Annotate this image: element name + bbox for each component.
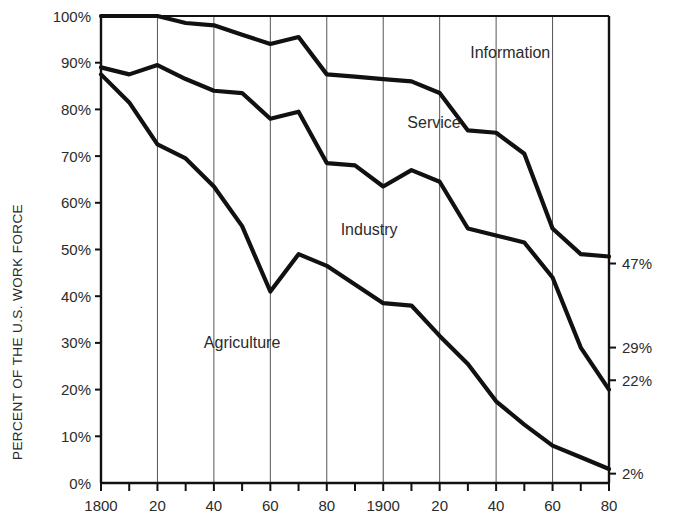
x-tick-label-1840: 40: [206, 497, 223, 514]
y-tick-label-80: 80%: [61, 101, 91, 118]
boundary-line-agriculture-top: [101, 74, 609, 469]
x-tick-label-1940: 40: [488, 497, 505, 514]
right-tick-label-22: 22%: [622, 372, 652, 389]
series-label-service: Service: [407, 114, 460, 131]
y-tick-label-70: 70%: [61, 148, 91, 165]
right-tick-label-2: 2%: [622, 465, 644, 482]
y-axis-title: PERCENT OF THE U.S. WORK FORCE: [10, 204, 25, 460]
y-tick-label-10: 10%: [61, 428, 91, 445]
boundary-lines-group: [101, 16, 609, 469]
y-tick-label-50: 50%: [61, 241, 91, 258]
series-label-information: Information: [470, 44, 550, 61]
work-force-area-chart: PERCENT OF THE U.S. WORK FORCE 0%10%20%3…: [0, 0, 673, 528]
x-tick-label-1900: 1900: [367, 497, 400, 514]
y-tick-label-20: 20%: [61, 381, 91, 398]
x-tick-label-1860: 60: [262, 497, 279, 514]
x-tick-label-1880: 80: [318, 497, 335, 514]
gridlines-group: [157, 16, 552, 483]
series-labels-group: AgricultureIndustryServiceInformation: [204, 44, 550, 351]
y-tick-label-30: 30%: [61, 334, 91, 351]
x-tick-label-1920: 20: [431, 497, 448, 514]
x-tick-label-1980: 80: [601, 497, 618, 514]
chart-container: PERCENT OF THE U.S. WORK FORCE 0%10%20%3…: [0, 0, 673, 528]
y-tick-labels-group: 0%10%20%30%40%50%60%70%80%90%100%: [53, 8, 91, 492]
y-tick-label-100: 100%: [53, 8, 91, 25]
right-tick-label-29: 29%: [622, 339, 652, 356]
x-tick-label-1800: 1800: [84, 497, 117, 514]
right-tick-labels-group: 47%29%22%2%: [622, 255, 652, 482]
y-tick-label-60: 60%: [61, 194, 91, 211]
y-tick-label-40: 40%: [61, 288, 91, 305]
y-tick-label-90: 90%: [61, 54, 91, 71]
series-label-industry: Industry: [341, 221, 398, 238]
axes-group: [95, 16, 616, 491]
y-tick-label-0: 0%: [69, 475, 91, 492]
right-tick-label-47: 47%: [622, 255, 652, 272]
x-tick-label-1820: 20: [149, 497, 166, 514]
x-tick-labels-group: 180020406080190020406080: [84, 497, 617, 514]
x-tick-label-1960: 60: [544, 497, 561, 514]
series-label-agriculture: Agriculture: [204, 334, 281, 351]
